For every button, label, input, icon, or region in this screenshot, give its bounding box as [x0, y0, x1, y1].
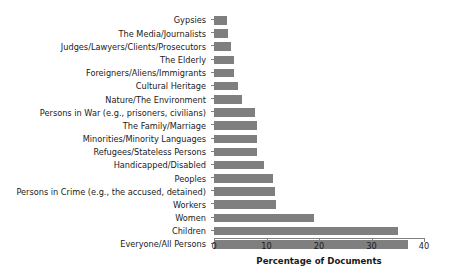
- bar-row: [214, 133, 424, 146]
- y-axis-label-9: Minorities/Minority Languages: [0, 133, 210, 146]
- bar-row: [214, 119, 424, 132]
- bar-row: [214, 185, 424, 198]
- x-axis-title: Percentage of Documents: [214, 256, 424, 266]
- y-axis-label-text: The Family/Marriage: [123, 122, 206, 130]
- x-axis-tick-label: 40: [419, 242, 429, 250]
- bar: [214, 16, 227, 25]
- bar-row: [214, 54, 424, 67]
- y-axis-label-11: Handicapped/Disabled: [0, 159, 210, 172]
- y-axis-label-text: Peoples: [175, 175, 206, 183]
- bar: [214, 108, 255, 117]
- y-axis-label-text: Refugees/Stateless Persons: [93, 148, 206, 156]
- y-axis-label-10: Refugees/Stateless Persons: [0, 146, 210, 159]
- y-axis-label-1: The Media/Journalists: [0, 27, 210, 40]
- bar: [214, 82, 238, 91]
- bar: [214, 227, 398, 236]
- bar-row: [214, 93, 424, 106]
- y-axis-label-14: Workers: [0, 198, 210, 211]
- bar-row: [214, 40, 424, 53]
- bar-row: [214, 14, 424, 27]
- bar: [214, 240, 408, 249]
- bar-row: [214, 80, 424, 93]
- y-axis-label-text: Children: [172, 227, 206, 235]
- x-axis-tick-label: 10: [261, 242, 271, 250]
- y-axis-label-17: Everyone/All Persons: [0, 238, 210, 251]
- y-axis-label-16: Children: [0, 225, 210, 238]
- y-axis-label-text: The Elderly: [160, 56, 206, 64]
- bar: [214, 200, 276, 209]
- y-axis-label-text: Nature/The Environment: [105, 96, 206, 104]
- bar-row: [214, 67, 424, 80]
- y-axis-label-text: Persons in Crime (e.g., the accused, det…: [16, 188, 206, 196]
- y-axis-label-text: The Media/Journalists: [118, 30, 206, 38]
- bar-row: [214, 198, 424, 211]
- y-axis-label-text: Persons in War (e.g., prisoners, civilia…: [40, 109, 206, 117]
- y-axis-label-3: The Elderly: [0, 54, 210, 67]
- bar: [214, 56, 234, 65]
- y-axis-label-13: Persons in Crime (e.g., the accused, det…: [0, 185, 210, 198]
- y-axis-label-12: Peoples: [0, 172, 210, 185]
- bar: [214, 95, 242, 104]
- bar: [214, 161, 264, 170]
- bar: [214, 121, 257, 130]
- y-axis-label-15: Women: [0, 212, 210, 225]
- y-axis-label-5: Cultural Heritage: [0, 80, 210, 93]
- bar: [214, 42, 231, 51]
- y-axis-label-text: Women: [175, 214, 206, 222]
- bar: [214, 187, 275, 196]
- y-axis-label-8: The Family/Marriage: [0, 119, 210, 132]
- y-axis-label-text: Judges/Lawyers/Clients/Prosecutors: [61, 43, 206, 51]
- bar: [214, 148, 257, 157]
- bar-row: [214, 27, 424, 40]
- plot-area: [214, 14, 424, 238]
- y-axis-label-text: Foreigners/Aliens/Immigrants: [86, 69, 206, 77]
- y-axis-label-text: Workers: [173, 201, 206, 209]
- bar-row: [214, 225, 424, 238]
- bar-row: [214, 159, 424, 172]
- y-axis-category-labels: GypsiesThe Media/JournalistsJudges/Lawye…: [0, 14, 210, 238]
- x-axis-tick-label: 20: [314, 242, 324, 250]
- y-axis-label-0: Gypsies: [0, 14, 210, 27]
- bar: [214, 135, 257, 144]
- x-axis-tick-label: 0: [211, 242, 216, 250]
- bar-row: [214, 212, 424, 225]
- y-axis-label-text: Handicapped/Disabled: [114, 161, 206, 169]
- bar: [214, 69, 234, 78]
- bar-chart: GypsiesThe Media/JournalistsJudges/Lawye…: [0, 0, 450, 278]
- x-axis-tick-label: 30: [366, 242, 376, 250]
- bar: [214, 29, 228, 38]
- y-axis-label-text: Everyone/All Persons: [120, 240, 206, 248]
- y-axis-label-text: Gypsies: [174, 16, 206, 24]
- bar: [214, 214, 314, 223]
- bar-row: [214, 146, 424, 159]
- bar-row: [214, 172, 424, 185]
- bar: [214, 174, 273, 183]
- y-axis-label-text: Minorities/Minority Languages: [83, 135, 206, 143]
- y-axis-label-4: Foreigners/Aliens/Immigrants: [0, 67, 210, 80]
- y-axis-label-text: Cultural Heritage: [136, 82, 206, 90]
- y-axis-label-7: Persons in War (e.g., prisoners, civilia…: [0, 106, 210, 119]
- y-axis-label-6: Nature/The Environment: [0, 93, 210, 106]
- bar-row: [214, 106, 424, 119]
- y-axis-label-2: Judges/Lawyers/Clients/Prosecutors: [0, 40, 210, 53]
